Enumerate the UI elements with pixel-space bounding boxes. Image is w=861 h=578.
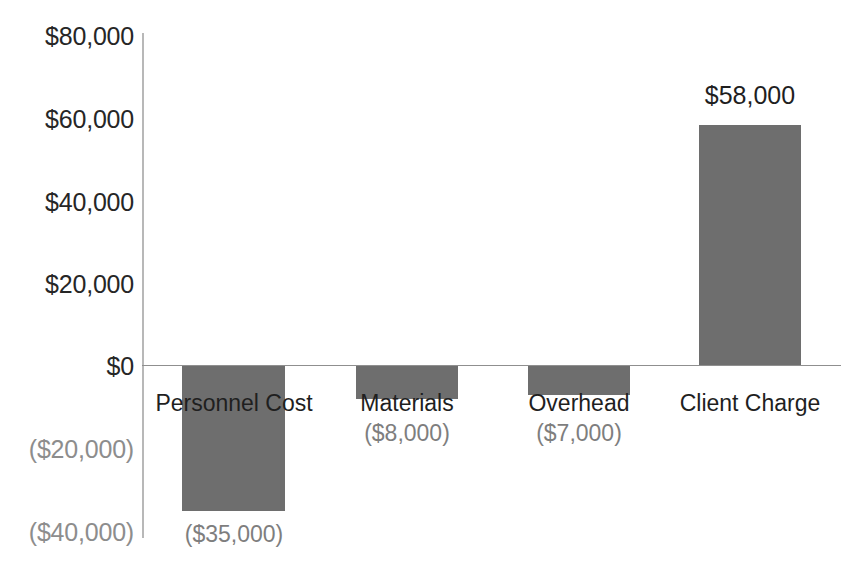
bar-client-charge bbox=[699, 125, 801, 365]
y-tick-label-40000: $40,000 bbox=[12, 190, 134, 215]
y-axis-line bbox=[142, 33, 144, 538]
bar-chart: $80,000 $60,000 $40,000 $20,000 $0 ($20,… bbox=[0, 0, 861, 578]
value-label-client-charge: $58,000 bbox=[666, 82, 834, 108]
value-label-materials: ($8,000) bbox=[323, 420, 491, 446]
y-tick-label-20000: $20,000 bbox=[12, 272, 134, 297]
y-axis-labels: $80,000 $60,000 $40,000 $20,000 $0 ($20,… bbox=[0, 0, 134, 578]
category-label-client-charge: Client Charge bbox=[666, 390, 834, 416]
y-tick-label-0: $0 bbox=[12, 354, 134, 379]
y-tick-label-80000: $80,000 bbox=[12, 24, 134, 49]
value-label-personnel-cost: ($35,000) bbox=[150, 521, 318, 547]
y-tick-label-neg20000: ($20,000) bbox=[12, 437, 134, 462]
bar-personnel-cost bbox=[182, 366, 285, 511]
category-label-materials: Materials bbox=[323, 390, 491, 416]
category-label-overhead: Overhead bbox=[495, 390, 663, 416]
y-tick-label-neg40000: ($40,000) bbox=[12, 520, 134, 545]
category-label-personnel-cost: Personnel Cost bbox=[150, 390, 318, 416]
y-tick-label-60000: $60,000 bbox=[12, 107, 134, 132]
value-label-overhead: ($7,000) bbox=[495, 420, 663, 446]
